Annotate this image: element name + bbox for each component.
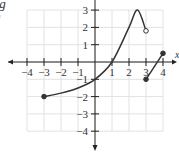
open-endpoint-circle bbox=[144, 29, 149, 34]
x-tick-label: 2 bbox=[126, 66, 132, 78]
function-graph: x−4−3−2−11234321−1−2−3−4 bbox=[0, 0, 179, 153]
x-tick-label: −3 bbox=[38, 66, 50, 78]
x-tick-label: −2 bbox=[55, 66, 67, 78]
closed-endpoint-dot bbox=[42, 94, 47, 99]
closed-endpoint-dot bbox=[144, 77, 149, 82]
x-axis-arrow-left-icon bbox=[8, 60, 13, 65]
y-tick-label: −2 bbox=[76, 91, 88, 103]
closed-endpoint-dot bbox=[161, 51, 166, 56]
x-tick-label: −4 bbox=[21, 66, 33, 78]
y-axis-arrow-down-icon bbox=[93, 145, 98, 151]
x-axis-label: x bbox=[174, 49, 179, 60]
y-tick-label: 2 bbox=[83, 21, 89, 33]
x-tick-label: 4 bbox=[160, 66, 166, 78]
y-tick-label: 1 bbox=[83, 39, 89, 51]
y-tick-label: 3 bbox=[83, 4, 89, 16]
y-tick-label: −3 bbox=[76, 108, 88, 120]
y-tick-label: −1 bbox=[76, 73, 88, 85]
x-axis-arrow-right-icon bbox=[172, 60, 177, 65]
x-tick-label: 1 bbox=[109, 66, 115, 78]
y-tick-label: −4 bbox=[76, 125, 88, 137]
